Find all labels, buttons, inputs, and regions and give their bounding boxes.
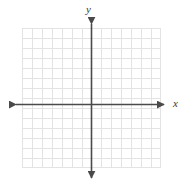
coordinate-plane-figure: y x <box>0 0 188 190</box>
y-axis-label: y <box>86 4 91 15</box>
coordinate-plane-svg <box>0 0 188 190</box>
x-axis-label: x <box>173 98 178 109</box>
